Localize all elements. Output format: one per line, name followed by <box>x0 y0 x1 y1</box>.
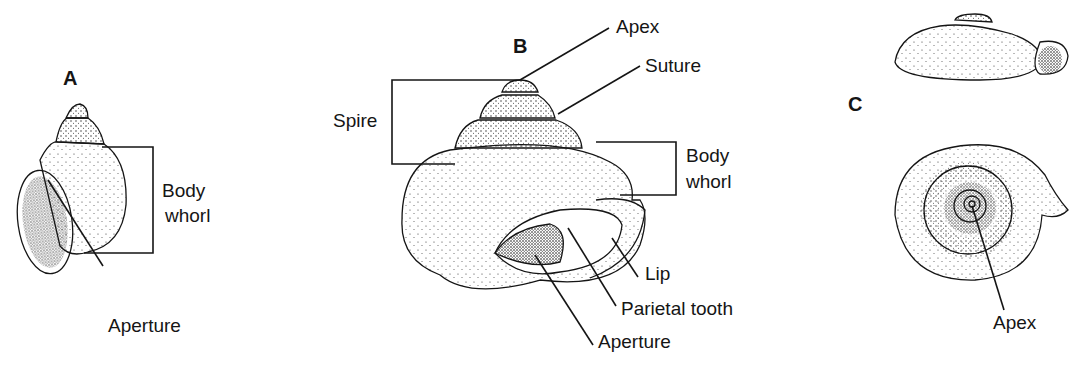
label-b-apex: Apex <box>616 17 659 36</box>
label-b-whorl: whorl <box>686 172 731 191</box>
figure-letter-a: A <box>63 67 77 90</box>
label-b-lip: Lip <box>645 264 670 283</box>
panel-a-shell <box>11 104 126 277</box>
label-b-spire: Spire <box>333 111 377 130</box>
label-b-body: Body <box>686 146 729 165</box>
figure-letter-c: C <box>848 93 862 116</box>
label-a-body: Body <box>162 181 205 200</box>
label-c-apex: Apex <box>993 313 1036 332</box>
label-b-aperture: Aperture <box>598 332 671 351</box>
panel-b-shell <box>402 80 645 289</box>
figure-letter-b: B <box>513 35 527 58</box>
panel-c-side-shell <box>895 14 1068 80</box>
panel-c-top-shell <box>895 145 1068 280</box>
label-a-whorl: whorl <box>165 206 210 225</box>
label-b-parietal-tooth: Parietal tooth <box>621 299 733 318</box>
label-b-suture: Suture <box>645 56 701 75</box>
label-a-aperture: Aperture <box>108 316 181 335</box>
